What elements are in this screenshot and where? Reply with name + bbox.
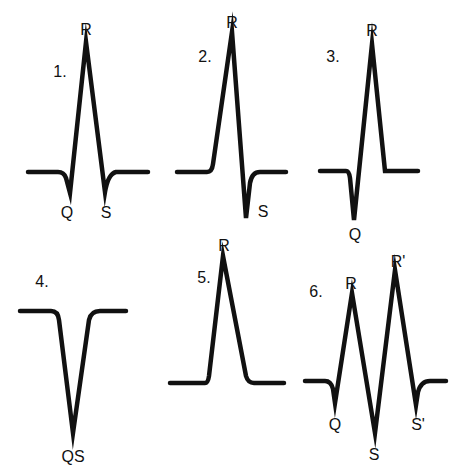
label-s: S <box>258 203 269 220</box>
panel-1: 1. R Q S <box>28 21 148 221</box>
label-r: R <box>226 14 238 31</box>
label-s: S <box>101 204 112 221</box>
label-r-prime: R' <box>391 253 406 270</box>
panel-number: 6. <box>309 283 322 300</box>
waveform-qrs-4 <box>20 311 126 433</box>
label-r: R <box>366 22 378 39</box>
panel-5: 5. R <box>170 237 284 383</box>
label-q: Q <box>349 226 361 243</box>
panel-3: 3. R Q <box>320 22 418 243</box>
qrs-morphology-diagram: 1. R Q S 2. R S 3. R Q 4. QS 5. R 6. R R… <box>0 0 462 473</box>
label-s-prime: S' <box>411 416 425 433</box>
panel-number: 2. <box>198 48 211 65</box>
panel-number: 1. <box>53 63 66 80</box>
waveform-qrs-1 <box>28 42 148 193</box>
label-r: R <box>345 275 357 292</box>
panel-number: 4. <box>35 273 48 290</box>
waveform-qrs-6 <box>305 270 446 433</box>
label-r: R <box>218 237 230 254</box>
panel-2: 2. R S <box>177 14 286 220</box>
label-q: Q <box>61 204 73 221</box>
waveform-qrs-5 <box>170 256 284 383</box>
panel-number: 5. <box>197 269 210 286</box>
label-s: S <box>369 446 380 463</box>
label-r: R <box>80 21 92 38</box>
waveform-qrs-2 <box>177 32 286 218</box>
panel-number: 3. <box>326 48 339 65</box>
waeform-qrs-3 <box>320 44 418 220</box>
label-qs: QS <box>61 448 84 465</box>
label-q: Q <box>329 416 341 433</box>
panel-6: 6. R R' Q S S' <box>305 253 446 463</box>
diagram-canvas: 1. R Q S 2. R S 3. R Q 4. QS 5. R 6. R R… <box>0 0 462 473</box>
panel-4: 4. QS <box>20 273 126 465</box>
